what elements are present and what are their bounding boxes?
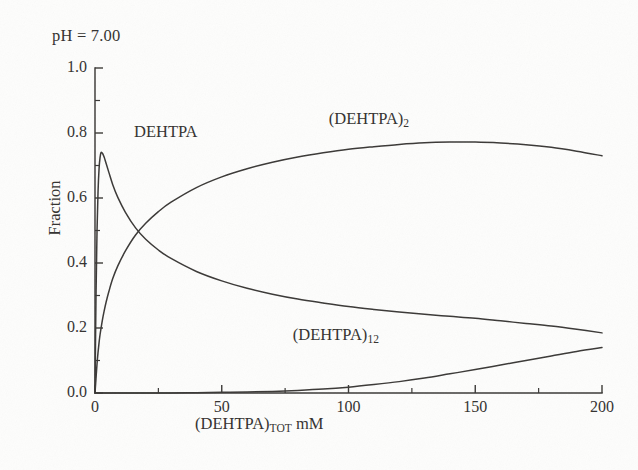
curve-label-main: (DEHTPA) — [329, 109, 404, 128]
x-tick-label: 200 — [580, 398, 624, 416]
x-axis-label-main: (DEHTPA) — [195, 414, 270, 433]
x-axis-label: (DEHTPA)TOT mM — [195, 414, 323, 434]
curve-label-main: (DEHTPA) — [293, 325, 368, 344]
x-tick-label: 50 — [200, 398, 244, 416]
y-tick-label: 0.4 — [47, 253, 87, 271]
x-axis-label-unit: mM — [292, 414, 324, 433]
curve-label-main: DEHTPA — [134, 122, 198, 141]
curve-label-subscript: 2 — [403, 117, 409, 129]
x-axis-label-sub: TOT — [270, 422, 292, 434]
x-tick-label: 150 — [453, 398, 497, 416]
y-tick-label: 0.6 — [47, 188, 87, 206]
y-axis-label: Fraction — [45, 148, 65, 268]
x-tick-label: 0 — [73, 398, 117, 416]
curve-label-dehtpa: DEHTPA — [134, 122, 198, 142]
y-tick-label: 0.8 — [47, 123, 87, 141]
ph-annotation: pH = 7.00 — [52, 26, 120, 46]
curve-label-dehtpa2: (DEHTPA)2 — [329, 109, 409, 129]
y-tick-label: 1.0 — [47, 58, 87, 76]
x-tick-label: 100 — [327, 398, 371, 416]
y-tick-label: 0.2 — [47, 318, 87, 336]
curve-label-subscript: 12 — [367, 333, 379, 345]
curve-label-dehtpa12: (DEHTPA)12 — [293, 325, 379, 345]
